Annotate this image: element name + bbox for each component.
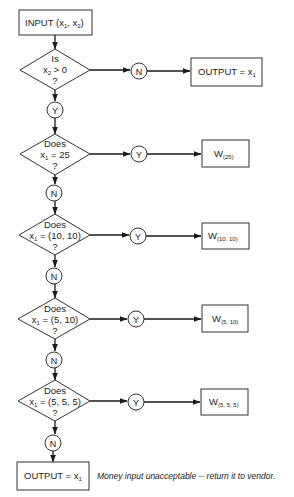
decision-3: Does x1 = (10, 10) ? — [19, 214, 90, 255]
svg-text:Y: Y — [133, 315, 139, 325]
svg-text:Does: Does — [44, 219, 66, 230]
output-box-w5-5-5: W(5, 5, 5) — [201, 389, 248, 415]
svg-text:OUTPUT = x1: OUTPUT = x1 — [24, 470, 82, 482]
connector-no-4: N — [46, 352, 62, 368]
svg-text:N: N — [51, 356, 58, 366]
decision-1: Is x2 > 0 ? — [20, 49, 90, 90]
output-box-1: OUTPUT = x1 — [191, 58, 262, 86]
connector-no-2: N — [46, 185, 62, 201]
caption-reject-note: Money input unacceptable -- return it to… — [97, 471, 275, 481]
decision-4: Does x1 = (5, 10) ? — [18, 298, 90, 339]
connector-no-3: N — [46, 268, 62, 284]
svg-text:N: N — [136, 67, 143, 77]
connector-yes-2: Y — [131, 146, 147, 162]
svg-text:Is: Is — [51, 53, 59, 64]
connector-no-1: N — [131, 63, 147, 79]
svg-text:N: N — [51, 272, 58, 282]
connector-yes-5: Y — [128, 394, 144, 410]
connector-yes-3: Y — [130, 228, 146, 244]
output-box-w25: W(25) — [202, 140, 249, 167]
svg-text:Y: Y — [136, 150, 142, 160]
input-box: INPUT (x1, x2) — [19, 10, 92, 35]
connector-yes-1: Y — [47, 102, 63, 118]
decision-2: Does x1 = 25 ? — [20, 134, 90, 175]
svg-text:?: ? — [52, 75, 57, 86]
svg-text:?: ? — [52, 325, 57, 336]
svg-text:Y: Y — [135, 232, 141, 242]
connector-yes-4: Y — [128, 311, 144, 327]
output-box-w10-10: W(10, 10) — [202, 223, 249, 249]
svg-text:N: N — [51, 189, 58, 199]
input-label: INPUT (x1, x2) — [25, 17, 84, 29]
svg-text:?: ? — [52, 407, 57, 418]
decision-5: Does x1 = (5, 5, 5) ? — [18, 380, 90, 421]
svg-text:?: ? — [52, 160, 57, 171]
svg-text:N: N — [50, 439, 57, 449]
svg-text:Does: Does — [44, 385, 66, 396]
connector-no-5: N — [45, 435, 61, 451]
output-box-w5-10: W(5, 10) — [202, 305, 248, 332]
svg-text:Does: Does — [44, 138, 66, 149]
flowchart: INPUT (x1, x2) Is x2 > 0 ? N OUTPUT = x1… — [0, 0, 294, 497]
output-box-final: OUTPUT = x1 — [17, 462, 89, 490]
svg-text:Does: Does — [44, 303, 66, 314]
svg-text:Y: Y — [133, 398, 139, 408]
svg-text:?: ? — [52, 241, 57, 252]
svg-text:OUTPUT = x1: OUTPUT = x1 — [198, 66, 256, 78]
svg-text:Y: Y — [52, 106, 58, 116]
